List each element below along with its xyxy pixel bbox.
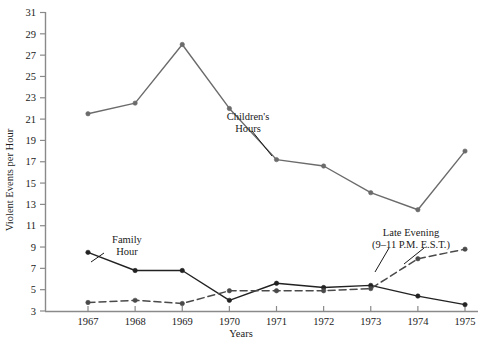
- data-point: [180, 268, 184, 272]
- data-point: [416, 294, 420, 298]
- y-tick-label: 7: [31, 263, 36, 274]
- x-tick-label: 1967: [78, 316, 99, 327]
- data-point: [133, 298, 137, 302]
- data-point: [274, 281, 278, 285]
- x-tick-label: 1968: [125, 316, 146, 327]
- data-point: [86, 300, 90, 304]
- data-point: [463, 149, 467, 153]
- y-tick-label: 25: [26, 71, 37, 82]
- y-tick-label: 29: [26, 29, 37, 40]
- data-point: [463, 302, 467, 306]
- annotation-family-hour-line2: Hour: [116, 246, 138, 257]
- series-line-late-evening-9-11-p-m-e-s-t: [88, 249, 465, 303]
- data-point: [133, 101, 137, 105]
- x-tick-label: 1972: [313, 316, 334, 327]
- series-markers-group: [86, 42, 467, 307]
- y-axis-ticks: [40, 13, 46, 312]
- data-point: [321, 289, 325, 293]
- x-tick-label: 1974: [407, 316, 429, 327]
- data-point: [274, 289, 278, 293]
- data-point: [227, 106, 231, 110]
- y-tick-label: 11: [26, 220, 36, 231]
- series-lines-group: [88, 44, 465, 304]
- data-point: [416, 208, 420, 212]
- series-line-children-s-hours: [88, 44, 465, 209]
- annotation-family-hour-line1: Family: [112, 234, 143, 245]
- y-tick-label: 23: [26, 92, 37, 103]
- data-point: [227, 289, 231, 293]
- x-tick-label: 1969: [172, 316, 193, 327]
- data-point: [463, 247, 467, 251]
- annotation-childrens-hours-line1: Children's: [227, 111, 270, 122]
- data-point: [180, 301, 184, 305]
- late-evening-leader-left: [375, 248, 389, 272]
- y-tick-label: 31: [26, 7, 37, 18]
- y-tick-label: 5: [31, 284, 36, 295]
- data-point: [180, 42, 184, 46]
- annotation-late-evening-line2: (9–11 P.M. E.S.T.): [372, 239, 450, 251]
- y-tick-label: 17: [26, 156, 37, 167]
- y-axis-tick-labels: 35791113151719212325272931: [26, 7, 37, 317]
- violent-events-line-chart: 35791113151719212325272931 1967196819691…: [0, 0, 481, 341]
- x-tick-label: 1970: [219, 316, 240, 327]
- chart-plot-area: 35791113151719212325272931 1967196819691…: [0, 0, 481, 341]
- annotation-childrens-hours-line2: Hours: [235, 123, 261, 134]
- data-point: [86, 250, 90, 254]
- annotation-leader-lines: [91, 131, 424, 272]
- data-point: [416, 257, 420, 261]
- data-point: [369, 190, 373, 194]
- y-tick-label: 3: [31, 306, 36, 317]
- data-point: [227, 298, 231, 302]
- data-point: [321, 164, 325, 168]
- x-tick-label: 1975: [455, 316, 476, 327]
- data-point: [274, 157, 278, 161]
- data-point: [133, 268, 137, 272]
- x-axis-tick-labels: 196719681969197019711972197319741975: [78, 316, 476, 327]
- y-tick-label: 27: [26, 50, 37, 61]
- y-axis-title: Violent Events per Hour: [4, 128, 15, 231]
- y-tick-label: 19: [26, 135, 37, 146]
- y-tick-label: 15: [26, 178, 37, 189]
- annotation-late-evening-line1: Late Evening: [383, 227, 440, 238]
- data-point: [369, 286, 373, 290]
- x-axis-ticks: [88, 306, 465, 312]
- y-tick-label: 21: [26, 114, 37, 125]
- data-point: [86, 112, 90, 116]
- x-tick-label: 1973: [360, 316, 381, 327]
- x-tick-label: 1971: [266, 316, 287, 327]
- y-tick-label: 13: [26, 199, 37, 210]
- childrens-hours-leader: [252, 131, 272, 156]
- y-tick-label: 9: [31, 242, 36, 253]
- x-axis-title: Years: [229, 328, 252, 339]
